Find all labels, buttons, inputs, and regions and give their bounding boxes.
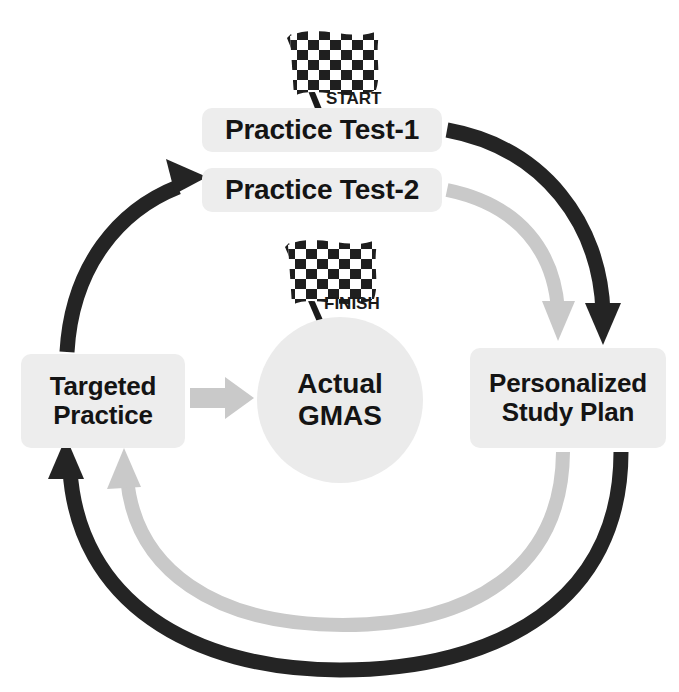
practice-test-1-label: Practice Test-1 (225, 114, 419, 145)
node-targeted-practice[interactable]: Targeted Practice (21, 354, 185, 448)
node-practice-test-1[interactable]: Practice Test-1 (202, 108, 442, 152)
personalized-study-plan-label-line2: Study Plan (502, 398, 634, 427)
personalized-study-plan-label-line1: Personalized (489, 369, 647, 398)
checkered-flag-finish-icon: FINISH (284, 229, 384, 322)
checkered-flag-start-icon: START (286, 20, 386, 116)
node-actual-gmas[interactable]: Actual GMAS (257, 317, 423, 483)
connector-test2-to-plan (447, 190, 575, 341)
practice-test-2-label: Practice Test-2 (225, 174, 419, 205)
node-practice-test-2[interactable]: Practice Test-2 (202, 168, 442, 212)
node-personalized-study-plan[interactable]: Personalized Study Plan (470, 348, 666, 448)
actual-gmas-label-line1: Actual (297, 368, 383, 400)
connector-targeted-to-test2 (67, 159, 207, 352)
finish-flag-label: FINISH (324, 294, 380, 313)
targeted-practice-label-line1: Targeted (50, 372, 156, 401)
actual-gmas-label-line2: GMAS (298, 400, 382, 432)
start-flag-label: START (326, 89, 382, 108)
targeted-practice-label-line2: Practice (53, 401, 153, 430)
connector-targeted-to-gmas (190, 377, 254, 419)
